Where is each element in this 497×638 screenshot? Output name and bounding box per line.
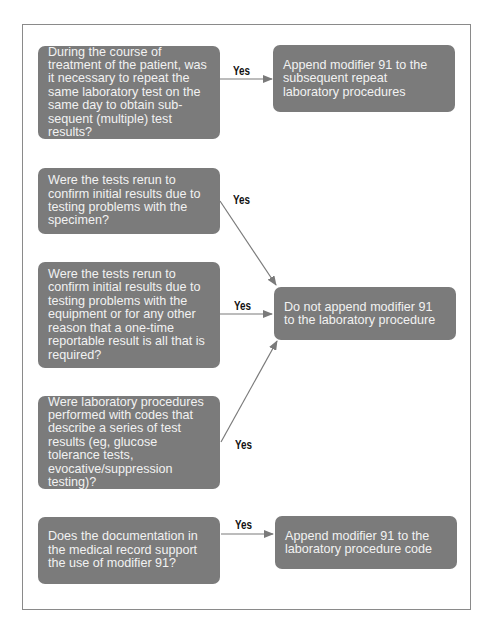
outcome-box-do-not-append: Do not append modifier 91 to the laborat… [274,287,456,340]
arrow-q2-a2 [220,201,276,285]
question-box-4: Were laboratory procedures performed wit… [38,396,220,489]
question-text: Were the tests rerun to confirm initial … [48,268,210,362]
question-box-2: Were the tests rerun to confirm initial … [38,168,220,234]
edge-label-yes: Yes [234,299,251,313]
question-box-3: Were the tests rerun to confirm initial … [38,262,220,368]
edge-label-yes: Yes [235,518,252,532]
edge-label-yes: Yes [233,64,250,78]
question-box-1: During the course of treatment of the pa… [38,46,220,139]
question-text: During the course of treatment of the pa… [48,46,210,140]
edge-label-yes: Yes [233,193,250,207]
question-text: Were the tests rerun to confirm initial … [48,174,210,228]
question-box-5: Does the documentation in the medical re… [38,517,220,584]
outcome-text: Append modifier 91 to the laboratory pro… [285,530,447,557]
edge-label-yes: Yes [235,438,252,452]
outcome-box-append-code: Append modifier 91 to the laboratory pro… [275,516,457,569]
outcome-box-append-subsequent: Append modifier 91 to the subsequent rep… [273,45,455,112]
question-text: Were laboratory procedures performed wit… [48,396,210,490]
outcome-text: Do not append modifier 91 to the laborat… [284,301,446,328]
question-text: Does the documentation in the medical re… [48,530,210,570]
arrow-q4-a2 [221,341,277,442]
outcome-text: Append modifier 91 to the subsequent rep… [283,59,445,99]
